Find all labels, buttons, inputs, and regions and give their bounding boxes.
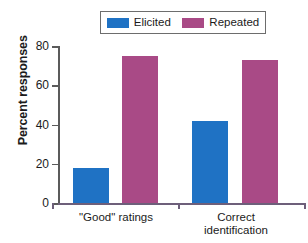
bar-elicited-0 xyxy=(73,168,109,203)
bar-chart: Elicited Repeated 806040200 Percent resp… xyxy=(0,0,308,243)
bar-repeated-1 xyxy=(242,60,278,203)
x-axis-end-tick xyxy=(304,203,306,209)
x-axis-label-0: "Good" ratings xyxy=(56,211,176,224)
x-axis-label-1: Correct identification xyxy=(176,211,296,237)
bars-layer xyxy=(0,0,308,203)
plot-area: 806040200 Percent responses "Good" ratin… xyxy=(0,0,308,243)
x-axis-start-tick xyxy=(52,203,54,209)
x-axis-group-divider xyxy=(178,203,180,209)
bar-repeated-0 xyxy=(122,56,158,203)
bar-elicited-1 xyxy=(192,121,228,203)
